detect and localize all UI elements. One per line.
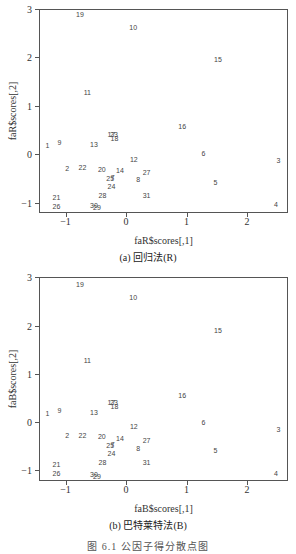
subfigure-caption: (b) 巴特莱特法(B) bbox=[109, 517, 187, 532]
data-point-label: 3 bbox=[277, 426, 281, 433]
data-point-label: 14 bbox=[116, 434, 124, 441]
y-tick-mark bbox=[35, 422, 39, 423]
data-point-label: 1 bbox=[45, 410, 49, 417]
y-tick-label: 2 bbox=[27, 320, 32, 331]
data-point-label: 19 bbox=[76, 280, 84, 287]
x-axis-label: faB$scores[,1] bbox=[134, 503, 193, 514]
y-tick-mark bbox=[35, 374, 39, 375]
data-point-label: 16 bbox=[178, 391, 186, 398]
data-point-label: 31 bbox=[143, 459, 151, 466]
y-tick-mark bbox=[35, 470, 39, 471]
data-point-label: 2 bbox=[65, 432, 69, 439]
data-point-label: 21 bbox=[53, 461, 61, 468]
data-point-label: 9 bbox=[57, 407, 61, 414]
x-tick-label: −1 bbox=[60, 484, 71, 495]
figure-caption: 图 6.1 公因子得分散点图 bbox=[87, 538, 209, 553]
y-tick-label: 1 bbox=[27, 368, 32, 379]
data-point-label: 13 bbox=[90, 409, 98, 416]
data-point-label: 24 bbox=[108, 450, 116, 457]
data-point-label: 10 bbox=[129, 293, 137, 300]
x-tick-label: 1 bbox=[184, 484, 189, 495]
data-point-label: 4 bbox=[274, 469, 278, 476]
data-point-label: 23 bbox=[110, 398, 118, 405]
y-tick-mark bbox=[35, 326, 39, 327]
data-point-label: 20 bbox=[98, 433, 106, 440]
y-tick-mark bbox=[35, 277, 39, 278]
x-tick-label: 0 bbox=[124, 484, 129, 495]
data-point-label: 30 bbox=[90, 470, 98, 477]
y-tick-label: −1 bbox=[21, 465, 32, 476]
y-tick-label: 0 bbox=[27, 417, 32, 428]
plot-frame bbox=[39, 277, 288, 481]
x-tick-label: 2 bbox=[245, 484, 250, 495]
data-point-label: 6 bbox=[201, 418, 205, 425]
data-point-label: 8 bbox=[136, 445, 140, 452]
data-point-label: 22 bbox=[79, 431, 87, 438]
data-point-label: 5 bbox=[214, 447, 218, 454]
data-point-label: 28 bbox=[98, 459, 106, 466]
data-point-label: 12 bbox=[130, 423, 138, 430]
data-point-label: 15 bbox=[214, 327, 222, 334]
data-point-label: 27 bbox=[143, 436, 151, 443]
data-point-label: 26 bbox=[53, 470, 61, 477]
y-tick-label: 3 bbox=[27, 272, 32, 283]
data-point-label: 11 bbox=[84, 357, 91, 364]
y-axis-label: faB$scores[,2] bbox=[7, 350, 18, 409]
scatter-panel-bartlett: −10123−1012faB$scores[,1]faB$scores[,2](… bbox=[0, 0, 296, 530]
data-point-label: 25 bbox=[106, 442, 114, 449]
